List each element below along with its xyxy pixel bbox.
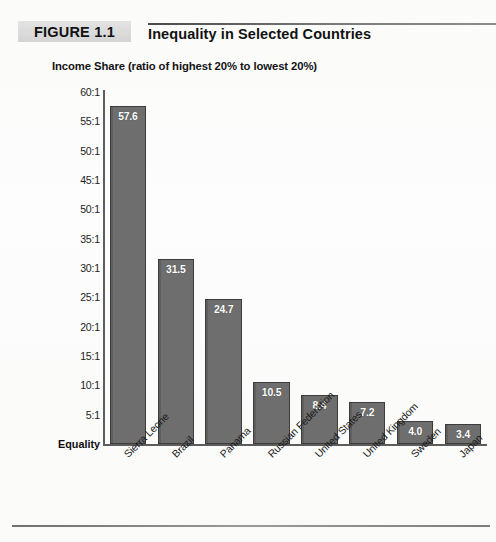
y-axis-tick-label: 45:1 bbox=[40, 174, 100, 186]
footer-divider bbox=[12, 525, 490, 527]
plot-area: 57.631.524.710.58.47.24.03.4 bbox=[104, 92, 487, 444]
y-axis-tick-label: 55:1 bbox=[40, 115, 100, 127]
y-axis-baseline-label: Equality bbox=[36, 438, 100, 450]
y-axis-tick-label: 50:1 bbox=[40, 145, 100, 157]
bar-value-label: 57.6 bbox=[111, 111, 145, 122]
y-axis-tick-label: 20:1 bbox=[40, 321, 100, 333]
header-divider bbox=[148, 23, 496, 25]
y-axis-tick-label: 5:1 bbox=[40, 409, 100, 421]
bar[interactable]: 24.7 bbox=[205, 299, 241, 444]
bar-value-label: 24.7 bbox=[206, 304, 240, 315]
y-axis-tick-label: 25:1 bbox=[40, 291, 100, 303]
figure-title: Inequality in Selected Countries bbox=[148, 26, 371, 42]
y-axis-tick-label: 60:1 bbox=[40, 86, 100, 98]
figure-page: FIGURE 1.1 Inequality in Selected Countr… bbox=[0, 0, 496, 542]
y-axis-tick-label: 50:1 bbox=[40, 203, 100, 215]
y-axis-tick-label: 15:1 bbox=[40, 350, 100, 362]
y-axis-tick-labels: 60:155:150:145:150:135:130:125:120:115:1… bbox=[38, 0, 100, 542]
bar[interactable]: 57.6 bbox=[110, 106, 146, 444]
y-axis-tick-label: 30:1 bbox=[40, 262, 100, 274]
bar-value-label: 31.5 bbox=[159, 264, 193, 275]
y-axis-tick-label: 35:1 bbox=[40, 233, 100, 245]
y-axis-tick-label: 10:1 bbox=[40, 379, 100, 391]
bar-value-label: 10.5 bbox=[254, 387, 288, 398]
